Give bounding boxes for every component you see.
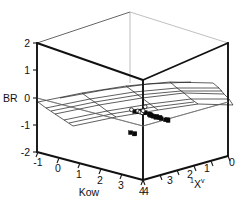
br-tick-0: 0 (24, 92, 30, 104)
xv-axis-title-superscript-post: v (201, 177, 205, 184)
xv-tick-0: 0 (229, 156, 235, 168)
data-point-filled (129, 131, 133, 135)
xv-axis-title-main: X (194, 178, 201, 190)
xv-tick-3: 3 (167, 174, 173, 186)
br-axis-tick-labels: 2 1 0 -1 -2 (21, 37, 31, 158)
3d-scatter-plot: 2 1 0 -1 -2 BR -1 0 1 2 3 4 Kow (0, 0, 246, 211)
data-point-group (129, 105, 171, 136)
kow-tick-3: 3 (118, 179, 124, 191)
data-point-filled (133, 132, 137, 136)
data-point-filled (159, 117, 163, 121)
xv-tick-1: 1 (204, 162, 210, 174)
kow-tick-2: 2 (97, 174, 103, 186)
xv-axis-title: 1 X v (190, 177, 205, 190)
br-tick-1: 1 (24, 64, 30, 76)
data-point-open (130, 108, 134, 112)
kow-tick-neg1: -1 (33, 156, 42, 168)
box-top-front-edges (37, 43, 228, 80)
data-point-filled (163, 118, 167, 122)
box-bottom-edges (37, 152, 228, 180)
chart-container: 2 1 0 -1 -2 BR -1 0 1 2 3 4 Kow (0, 0, 246, 211)
br-axis-title: BR (3, 92, 18, 104)
xv-tick-4: 4 (143, 185, 149, 197)
kow-tick-0: 0 (55, 162, 61, 174)
kow-tick-1: 1 (76, 168, 82, 180)
br-tick-neg2: -2 (21, 146, 30, 158)
regression-surface-mesh (38, 82, 233, 126)
br-tick-neg1: -1 (21, 119, 30, 131)
kow-axis-title: Kow (79, 186, 100, 198)
data-point-open (141, 109, 145, 113)
data-point-filled (154, 116, 158, 120)
box-back-edges (37, 12, 228, 83)
data-point-open (143, 105, 147, 109)
br-tick-2: 2 (24, 37, 30, 49)
